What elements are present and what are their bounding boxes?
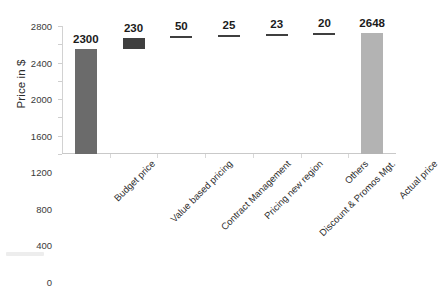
x-category-label: Value based pricing [168,158,234,224]
x-category-label: Budget price [111,158,156,203]
y-tick-mark: 400 [58,136,62,137]
y-tick-mark: 1600 [58,81,62,82]
bar-4[interactable] [218,35,240,37]
bar-value-label: 20 [318,17,331,29]
y-tick-label: 1200 [31,167,52,178]
y-tick-label: 2800 [31,21,52,32]
scan-artifact [6,252,44,256]
y-tick-mark: 800 [58,117,62,118]
y-tick-label: 0 [47,277,52,288]
y-tick-mark: 1200 [58,99,62,100]
bar-value-label: 2648 [359,17,385,29]
bar-value-label: 50 [175,20,188,32]
bar-5[interactable] [266,34,288,36]
y-tick-label: 1600 [31,130,52,141]
plot-area: 0400800120016002000240028002300230502523… [62,26,396,154]
bar-value-label: 25 [223,19,236,31]
x-axis-category-labels: Budget priceValue based pricingContract … [62,154,396,234]
bar-1[interactable] [75,49,97,154]
x-category-label: Actual price [397,158,440,201]
bar-value-label: 2300 [73,33,99,45]
bar-7[interactable] [361,33,383,154]
y-axis-title: Price in $ [15,39,27,129]
bar-value-label: 230 [124,22,143,34]
y-tick-label: 800 [36,203,52,214]
bar-2[interactable] [123,38,145,49]
y-tick-label: 2400 [31,57,52,68]
y-tick-label: 400 [36,240,52,251]
y-axis-line [62,26,63,154]
y-tick-mark: 2800 [58,26,62,27]
y-tick-mark: 2400 [58,44,62,45]
y-tick-label: 2000 [31,94,52,105]
bar-value-label: 23 [270,18,283,30]
bar-6[interactable] [313,33,335,35]
y-tick-mark: 2000 [58,63,62,64]
x-category-label: Pricing new region [262,158,325,221]
bar-3[interactable] [170,36,192,38]
